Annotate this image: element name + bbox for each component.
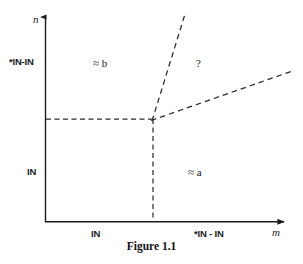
figure-caption: Figure 1.1 <box>0 240 303 252</box>
y-axis-variable-label: n <box>33 14 39 25</box>
region-label-upper-left: ≈ b <box>93 58 107 69</box>
region-label-unknown: ? <box>196 58 201 69</box>
y-tick-label-nonstandard: *IN-IN <box>9 57 34 67</box>
x-tick-label-nonstandard: *IN - IN <box>194 229 224 239</box>
steep-boundary-line <box>152 13 186 122</box>
y-tick-label-standard: IN <box>27 167 36 177</box>
region-label-lower-right: ≈ a <box>188 167 202 178</box>
diagram-canvas <box>0 0 303 264</box>
x-tick-label-standard: IN <box>91 229 100 239</box>
x-axis-variable-label: m <box>272 227 280 238</box>
shallow-boundary-line <box>151 72 291 121</box>
figure-1-1: n m *IN-IN IN IN *IN - IN ≈ b ? ≈ a Figu… <box>0 0 303 264</box>
